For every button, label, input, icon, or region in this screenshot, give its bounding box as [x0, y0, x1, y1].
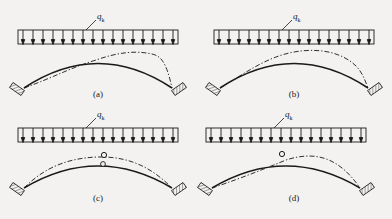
load-leader-c — [86, 118, 96, 128]
arch-load-figure: qk (a) — [0, 0, 392, 219]
crown-hinge-d — [279, 151, 284, 156]
load-label-a: qk — [97, 11, 105, 23]
load-label-c: qk — [97, 110, 105, 121]
deflected-shape-d — [212, 156, 360, 188]
load-leader-b — [282, 20, 292, 30]
panel-a: qk (a) — [0, 0, 196, 109]
panel-caption-d: (d) — [196, 193, 392, 203]
panel-d: qk (d) — [196, 110, 392, 219]
panel-caption-b: (b) — [196, 89, 392, 99]
panel-caption-c: (c) — [0, 193, 196, 203]
panel-b: qk (b) — [196, 0, 392, 109]
deflected-shape-b — [220, 50, 368, 88]
crown-hinge-dashed-c — [101, 162, 106, 167]
load-band-a — [18, 30, 178, 45]
load-label-b: qk — [293, 11, 301, 23]
arch-axis-a — [24, 64, 172, 89]
load-leader-a — [86, 20, 96, 30]
panel-c: qk (c) — [0, 110, 196, 219]
crown-hinge-solid-c — [101, 152, 106, 157]
arch-axis-d — [212, 166, 360, 188]
deflected-shape-a — [24, 52, 172, 88]
deflected-shape-c — [24, 157, 172, 188]
load-label-d: qk — [285, 110, 293, 121]
arch-axis-c — [24, 166, 172, 188]
load-band-d — [206, 128, 366, 143]
load-band-c — [18, 128, 178, 143]
arch-axis-b — [220, 64, 368, 89]
load-band-b — [214, 30, 374, 45]
load-leader-d — [274, 118, 284, 128]
panel-caption-a: (a) — [0, 89, 196, 99]
